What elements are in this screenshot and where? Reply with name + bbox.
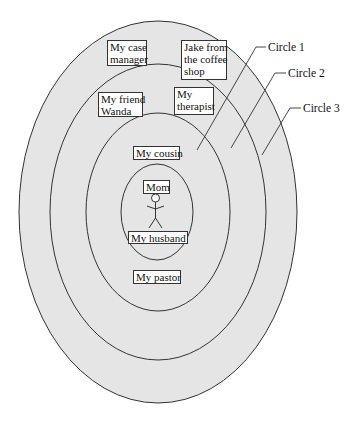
cousin-label: My cousin xyxy=(133,146,180,160)
mom-label: Mom xyxy=(143,180,170,194)
jake-line-2: the coffee xyxy=(184,53,224,65)
friend-wanda-line-1: My friend xyxy=(101,93,140,105)
husband-label: My husband xyxy=(128,231,188,244)
jake-label: Jake from the coffee shop xyxy=(181,40,227,80)
circle-2-label: Circle 2 xyxy=(288,67,325,79)
therapist-line-2: therapist xyxy=(177,100,211,112)
jake-line-3: shop xyxy=(184,65,224,77)
social-circles-diagram xyxy=(0,0,353,421)
friend-wanda-line-2: Wanda xyxy=(101,105,140,117)
pastor-label: My pastor xyxy=(133,270,181,284)
circle-3-label: Circle 3 xyxy=(303,102,340,114)
therapist-line-1: My xyxy=(177,88,211,100)
friend-wanda-label: My friend Wanda xyxy=(98,92,143,117)
center-ring xyxy=(121,164,193,260)
case-manager-label: My case manager xyxy=(107,40,147,66)
case-manager-line-2: manager xyxy=(110,53,144,65)
circle-1-label: Circle 1 xyxy=(268,41,305,53)
therapist-label: My therapist xyxy=(174,87,214,115)
jake-line-1: Jake from xyxy=(184,41,224,53)
case-manager-line-1: My case xyxy=(110,41,144,53)
